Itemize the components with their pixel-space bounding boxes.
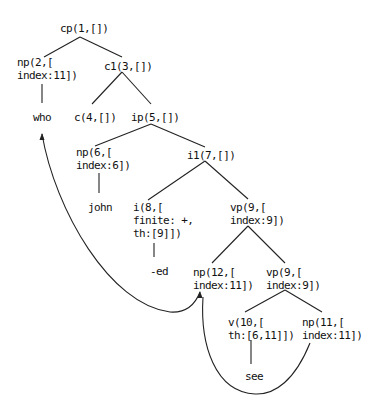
- node-label-line: c1(3,[]): [104, 60, 152, 73]
- node-label-line: i(8,[: [133, 201, 193, 214]
- node-label-line: index:6]): [76, 159, 130, 172]
- tree-edge: [212, 226, 248, 263]
- node-label-line: th:[6,11]]): [228, 329, 294, 342]
- tree-node-vp9b: vp(9,[index:9]): [266, 266, 320, 292]
- tree-edge: [95, 124, 151, 146]
- node-label-line: vp(9,[: [266, 266, 320, 279]
- tree-node-john: john: [88, 201, 112, 214]
- node-label-line: index:9]): [230, 214, 284, 227]
- tree-node-vp9a: vp(9,[index:9]): [230, 201, 284, 227]
- tree-edge: [151, 124, 205, 147]
- tree-node-c1_3: c1(3,[]): [104, 60, 152, 73]
- tree-node-ip5: ip(5,[]): [131, 111, 179, 124]
- node-label-line: who: [33, 111, 51, 124]
- tree-node-see: see: [245, 370, 263, 383]
- node-label-line: index:9]): [266, 279, 320, 292]
- tree-edge: [44, 37, 80, 57]
- tree-edge: [248, 226, 285, 263]
- node-label-line: index:11]): [302, 329, 362, 342]
- node-label-line: i1(7,[]): [187, 149, 235, 162]
- node-label-line: index:11]): [17, 69, 77, 82]
- tree-edge: [122, 72, 151, 104]
- node-label-line: th:[9]]): [133, 227, 193, 240]
- tree-edge: [80, 37, 122, 57]
- tree-node-ed: -ed: [150, 265, 168, 278]
- tree-edge: [205, 161, 248, 199]
- node-label-line: vp(9,[: [230, 201, 284, 214]
- tree-node-np2: np(2,[index:11]): [17, 56, 77, 82]
- tree-node-i1_7: i1(7,[]): [187, 149, 235, 162]
- node-label-line: np(2,[: [17, 56, 77, 69]
- tree-node-np11: np(11,[index:11]): [302, 316, 362, 342]
- node-label-line: index:11]): [193, 279, 253, 292]
- tree-node-cp1: cp(1,[]): [60, 22, 108, 35]
- node-label-line: -ed: [150, 265, 168, 278]
- tree-edge: [245, 290, 285, 312]
- tree-node-who: who: [33, 111, 51, 124]
- tree-node-c4: c(4,[]): [74, 111, 116, 124]
- node-label-line: john: [88, 201, 112, 214]
- node-label-line: np(11,[: [302, 316, 362, 329]
- arrowhead-icon: [198, 291, 203, 298]
- tree-node-np6: np(6,[index:6]): [76, 146, 130, 172]
- tree-node-i8: i(8,[finite: +,th:[9]]): [133, 201, 193, 240]
- node-label-line: np(12,[: [193, 266, 253, 279]
- node-label-line: v(10,[: [228, 316, 294, 329]
- tree-edge: [92, 72, 122, 104]
- node-label-line: np(6,[: [76, 146, 130, 159]
- node-label-line: cp(1,[]): [60, 22, 108, 35]
- tree-edge: [148, 161, 205, 200]
- arrowhead-icon: [40, 133, 45, 140]
- node-label-line: ip(5,[]): [131, 111, 179, 124]
- node-label-line: see: [245, 370, 263, 383]
- node-label-line: finite: +,: [133, 214, 193, 227]
- tree-node-np12: np(12,[index:11]): [193, 266, 253, 292]
- node-label-line: c(4,[]): [74, 111, 116, 124]
- syntax-tree-diagram: cp(1,[])np(2,[index:11])c1(3,[])whoc(4,[…: [0, 0, 366, 415]
- tree-edge: [285, 290, 322, 312]
- tree-node-v10: v(10,[th:[6,11]]): [228, 316, 294, 342]
